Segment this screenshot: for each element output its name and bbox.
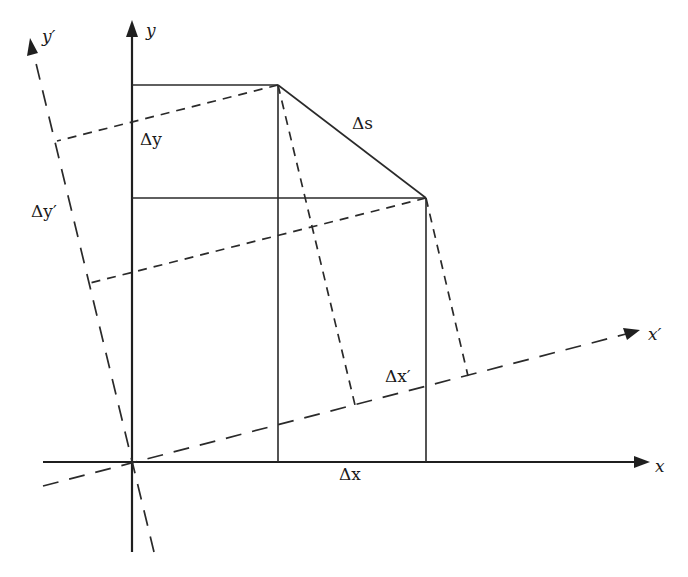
delta-y-label: Δy	[140, 131, 162, 148]
x-axis-label: x	[655, 458, 665, 475]
delta-x-label: Δx	[339, 466, 361, 483]
x-axis-arrowhead	[634, 456, 650, 468]
x-prime-axis-label: x′	[648, 326, 661, 343]
p1-projection-to-x-prime	[278, 85, 355, 405]
y-prime-axis-arrowhead	[27, 38, 38, 56]
y-axis-arrowhead	[126, 20, 138, 37]
diagram-canvas: x y x′ y′ Δs Δx Δy Δx′ Δy′	[0, 0, 688, 577]
p2-projection-to-y-prime	[90, 198, 426, 283]
delta-s-segment	[278, 85, 426, 198]
p2-projection-to-x-prime	[426, 198, 468, 376]
x-prime-axis-line	[43, 334, 626, 486]
y-prime-axis-label: y′	[42, 28, 55, 45]
p1-projection-to-y-prime	[57, 85, 278, 141]
y-axis-label: y	[146, 22, 156, 39]
delta-y-prime-label: Δy′	[31, 203, 57, 220]
y-prime-axis-line	[34, 55, 154, 552]
diagram-svg	[0, 0, 688, 577]
x-prime-axis-arrowhead	[623, 328, 640, 340]
delta-s-label: Δs	[352, 115, 373, 132]
delta-x-prime-label: Δx′	[385, 368, 411, 385]
